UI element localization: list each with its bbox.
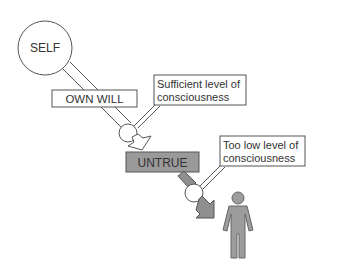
gray-arrow-icon	[196, 196, 214, 218]
person-icon	[223, 192, 253, 258]
too-low-leader	[198, 165, 225, 190]
untrue-label: UNTRUE	[138, 156, 188, 170]
self-label: SELF	[30, 41, 60, 55]
sufficient-leader	[134, 104, 160, 128]
sufficient-label-line2: consciousness	[157, 91, 230, 103]
sufficient-label-line1: Sufficient level of	[157, 78, 241, 90]
own-will-label: OWN WILL	[65, 93, 124, 105]
too-low-label-line2: consciousness	[223, 152, 296, 164]
too-low-label-line1: Too low level of	[223, 139, 299, 151]
diagram-canvas: SELF OWN WILL Sufficient level of consci…	[0, 0, 341, 272]
